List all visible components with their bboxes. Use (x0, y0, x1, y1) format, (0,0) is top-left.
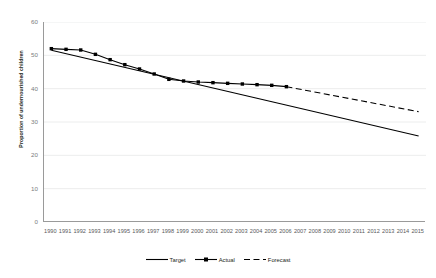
series-line-target (51, 50, 418, 136)
data-point-marker (226, 82, 229, 85)
data-point-marker (79, 48, 82, 51)
legend-label: Forecast (268, 257, 291, 263)
data-point-marker (64, 48, 67, 51)
x-tick-label: 2015 (409, 228, 427, 234)
chart-legend: TargetActualForecast (0, 256, 436, 263)
y-axis-title: Proportion of undernourished children (18, 24, 24, 174)
legend-label: Target (170, 257, 186, 263)
legend-item-actual[interactable]: Actual (195, 256, 235, 263)
data-point-marker (270, 84, 273, 87)
legend-item-target[interactable]: Target (146, 256, 186, 263)
legend-swatch-target-icon (146, 256, 168, 263)
data-point-marker (255, 83, 258, 86)
plot-svg (44, 22, 426, 222)
data-point-marker (123, 63, 126, 66)
legend-swatch-forecast-icon (244, 256, 266, 263)
legend-item-forecast[interactable]: Forecast (244, 256, 291, 263)
data-point-marker (94, 53, 97, 56)
data-point-marker (50, 47, 53, 50)
data-point-marker (138, 67, 141, 70)
plot-area (43, 22, 425, 222)
data-point-marker (211, 81, 214, 84)
data-point-marker (167, 78, 170, 81)
legend-label: Actual (219, 257, 235, 263)
data-point-marker (152, 72, 155, 75)
data-point-marker (182, 79, 185, 82)
chart-container: Proportion of undernourished children 01… (0, 0, 436, 278)
series-line-forecast (286, 87, 418, 112)
y-tick-label: 0 (20, 218, 38, 225)
data-point-marker (197, 80, 200, 83)
data-point-marker (108, 58, 111, 61)
legend-swatch-actual-icon (195, 256, 217, 263)
y-tick-label: 10 (20, 185, 38, 192)
data-point-marker (241, 82, 244, 85)
